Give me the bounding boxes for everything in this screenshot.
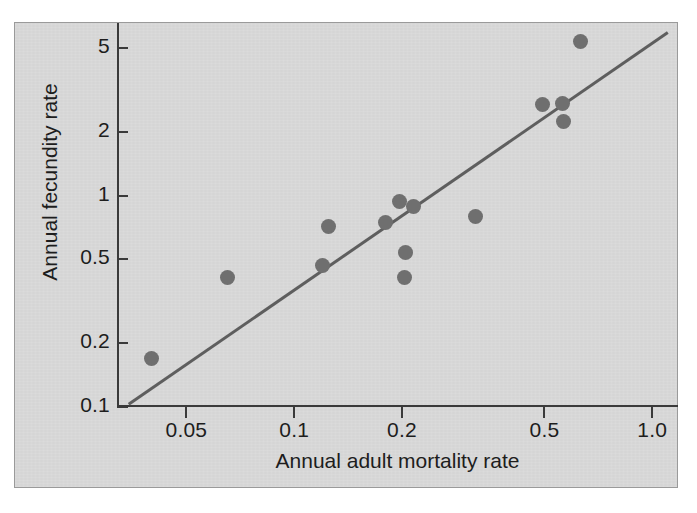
scatter-point [555, 96, 570, 111]
y-tick-label: 0.5 [56, 245, 110, 269]
y-tick-label: 0.2 [56, 329, 110, 353]
y-tick-label: 1 [56, 182, 110, 206]
scatter-point [378, 215, 393, 230]
y-tick-label: 0.1 [56, 393, 110, 417]
x-tick-1.0 [651, 407, 653, 418]
x-tick-label: 0.2 [362, 418, 442, 442]
x-tick-label: 0.05 [146, 418, 226, 442]
scatter-point [468, 209, 483, 224]
scatter-point [220, 270, 235, 285]
plot-data-area [117, 23, 678, 407]
scatter-point [315, 258, 330, 273]
scatter-point [321, 219, 336, 234]
regression-line [117, 23, 678, 407]
scatter-point [144, 351, 159, 366]
y-tick-label: 5 [56, 34, 110, 58]
scatter-point [397, 270, 412, 285]
scatter-point [406, 199, 421, 214]
x-tick-label: 1.0 [612, 418, 692, 442]
x-tick-0.2 [401, 407, 403, 418]
x-tick-label: 0.1 [254, 418, 334, 442]
y-tick-label: 2 [56, 118, 110, 142]
regression-line-path [129, 33, 668, 405]
x-tick-label: 0.5 [504, 418, 584, 442]
x-tick-0.5 [543, 407, 545, 418]
x-axis-title: Annual adult mortality rate [117, 449, 678, 473]
y-axis-title: Annual fecundity rate [38, 17, 62, 347]
x-tick-0.1 [293, 407, 295, 418]
scatter-point [573, 34, 588, 49]
scatter-point [556, 114, 571, 129]
figure-page: 0.10.20.5125 0.050.10.20.51.0 Annual adu… [0, 0, 697, 513]
x-tick-0.05 [185, 407, 187, 418]
